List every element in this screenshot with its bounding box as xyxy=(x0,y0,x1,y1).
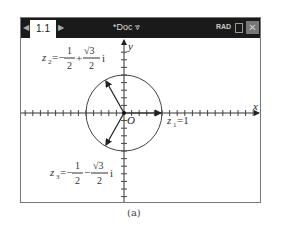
svg-text:−: − xyxy=(84,166,90,178)
z1-label: z 1 =1 xyxy=(166,114,189,129)
z3-vector xyxy=(106,113,124,145)
svg-text:2: 2 xyxy=(75,175,80,186)
svg-text:1: 1 xyxy=(75,160,80,171)
svg-text:z: z xyxy=(41,51,47,63)
svg-text:i: i xyxy=(110,167,113,179)
svg-text:2: 2 xyxy=(67,60,72,71)
z2-label: z 2 =− 1 2 + √3 2 i xyxy=(41,45,105,71)
figure-caption: (a) xyxy=(127,207,141,218)
complex-plane-graph: y x O z 1 =1 z 2 =− 1 2 + √3 2 i z 3 =− … xyxy=(0,0,281,230)
svg-text:√3: √3 xyxy=(93,160,104,171)
svg-text:i: i xyxy=(102,52,105,64)
svg-text:2: 2 xyxy=(89,60,94,71)
svg-text:z: z xyxy=(166,114,172,126)
svg-text:1: 1 xyxy=(67,45,72,56)
z2-vector xyxy=(106,81,124,113)
svg-text:√3: √3 xyxy=(84,45,95,56)
svg-text:=−: =− xyxy=(52,51,64,63)
svg-text:=1: =1 xyxy=(177,114,189,126)
svg-text:2: 2 xyxy=(97,175,102,186)
svg-text:+: + xyxy=(76,52,82,64)
x-axis-label: x xyxy=(252,100,258,112)
svg-text:z: z xyxy=(49,166,55,178)
svg-text:=−: =− xyxy=(60,166,72,178)
origin-label: O xyxy=(127,114,135,126)
z3-label: z 3 =− 1 2 − √3 2 i xyxy=(49,160,113,186)
y-axis-label: y xyxy=(127,40,133,52)
origin-point xyxy=(122,111,126,115)
